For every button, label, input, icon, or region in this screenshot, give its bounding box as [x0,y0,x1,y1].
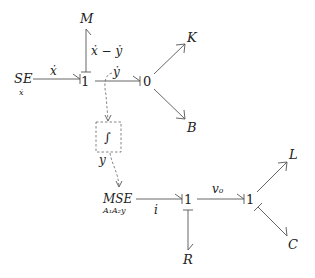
node-mse-sub: A₁A₂y [102,206,126,215]
bond-graph-diagram: SE ẋ 1 M 0 K B ∫ MSE A₁A₂y 1 R 1 L C ẋ ẋ… [0,0,315,278]
edge-label-xdot: ẋ [50,64,57,78]
bond-mse-to-junction1 [136,194,182,204]
node-zero: 0 [143,74,151,89]
node-junction1-right: 1 [246,192,254,207]
node-b: B [186,120,197,135]
node-se-sub: ẋ [19,88,24,97]
signal-integrator-to-mse [110,153,122,187]
node-integrator: ∫ [104,130,111,145]
node-junction1-top: 1 [81,74,89,89]
signal-junction1-to-integrator [105,73,112,121]
edge-label-vo: vₒ [212,182,224,196]
node-l: L [288,147,298,162]
node-junction1-mid: 1 [184,192,192,207]
node-c: C [288,237,298,252]
edge-label-xdot-minus-ydot: ẋ − ẏ [91,44,122,58]
bond-zero-to-k [154,44,185,74]
edge-label-ydot: ẏ [112,65,120,79]
bond-junction1-to-l [257,162,287,192]
bond-junction1-to-m [81,29,91,72]
node-r: R [182,252,193,267]
bond-junction1-to-c [254,203,287,236]
edge-label-i: i [154,203,158,217]
node-mse: MSE [102,192,133,206]
node-m: M [79,11,94,26]
bond-zero-to-b [154,89,185,119]
node-k: K [186,30,198,45]
bond-junction1-to-r [183,210,193,250]
node-se: SE [14,71,33,86]
edge-label-y: y [98,153,106,167]
